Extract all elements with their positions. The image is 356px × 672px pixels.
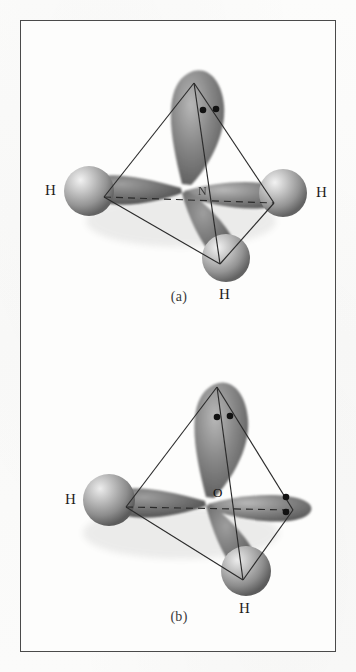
- lone-pair-dot-top-1: [214, 414, 221, 421]
- lone-pair-dot-1: [200, 107, 207, 114]
- figure-frame: N H H H (a): [20, 20, 336, 652]
- hydrogen-sphere-left: [83, 474, 135, 526]
- hydrogen-sphere-left: [64, 166, 114, 216]
- lone-pair-dot-right-1: [283, 494, 290, 501]
- panel-b-caption: (b): [21, 609, 337, 625]
- panel-a-molecule-graphic: [21, 21, 337, 291]
- central-atom-label-nitrogen: N: [198, 184, 207, 199]
- lone-pair-dot-right-2: [283, 509, 290, 516]
- central-atom-label-oxygen: O: [213, 485, 222, 501]
- lone-pair-dot-top-2: [227, 413, 234, 420]
- hydrogen-label-right: H: [316, 184, 327, 201]
- panel-b-molecule-graphic: [21, 337, 337, 607]
- panel-b-stage: O H H: [21, 337, 337, 607]
- panel-a-stage: N H H H: [21, 21, 337, 291]
- lone-pair-lobe-top: [194, 382, 248, 498]
- panel-a-caption: (a): [21, 289, 337, 305]
- hydrogen-label-left: H: [65, 491, 76, 508]
- panel-b-water: O H H (b): [21, 337, 337, 653]
- hydrogen-label-left: H: [45, 182, 56, 199]
- hydrogen-sphere-right: [259, 169, 307, 217]
- lone-pair-dot-2: [213, 106, 220, 113]
- panel-a-ammonia: N H H H (a): [21, 21, 337, 337]
